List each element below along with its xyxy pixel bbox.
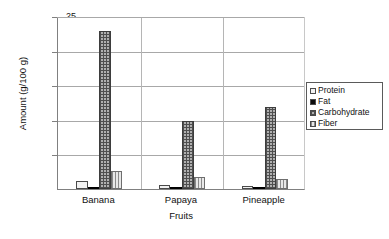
- legend-swatch-carbohydrate-icon: [310, 110, 316, 116]
- x-tick-label-pineapple: Pineapple: [222, 194, 305, 205]
- category-separator: [223, 18, 224, 189]
- x-axis-title: Fruits: [57, 210, 305, 221]
- bar-pineapple-carbohydrate: [265, 107, 277, 189]
- x-tick-label-papaya: Papaya: [140, 194, 223, 205]
- legend-item-fat[interactable]: Fat: [310, 96, 380, 107]
- bar-banana-protein: [76, 181, 88, 189]
- bar-banana-fat: [88, 187, 100, 189]
- legend-item-fiber[interactable]: Fiber: [310, 118, 380, 129]
- category-separator: [141, 18, 142, 189]
- bar-pineapple-fiber: [276, 179, 288, 189]
- legend-label-fiber: Fiber: [318, 118, 337, 129]
- bar-banana-carbohydrate: [99, 31, 111, 189]
- legend: Protein Fat Carbohydrate Fiber: [306, 82, 383, 130]
- bar-papaya-protein: [159, 185, 171, 189]
- bar-papaya-fat: [170, 187, 182, 189]
- legend-label-fat: Fat: [318, 96, 330, 107]
- bar-chart: Amount (g/100 g) 510152025 BananaPapayaP…: [0, 0, 389, 239]
- legend-item-protein[interactable]: Protein: [310, 85, 380, 96]
- legend-swatch-fat-icon: [310, 99, 316, 105]
- legend-item-carbohydrate[interactable]: Carbohydrate: [310, 107, 380, 118]
- y-axis-title: Amount (g/100 g): [17, 24, 28, 164]
- bar-papaya-carbohydrate: [182, 121, 194, 189]
- bar-papaya-fiber: [194, 177, 206, 189]
- x-tick-label-banana: Banana: [57, 194, 140, 205]
- gridline: [58, 86, 304, 87]
- bar-banana-fiber: [111, 171, 123, 189]
- legend-label-protein: Protein: [318, 85, 345, 96]
- gridline: [58, 17, 304, 18]
- legend-label-carbohydrate: Carbohydrate: [318, 107, 370, 118]
- plot-area: [57, 17, 305, 190]
- legend-swatch-protein-icon: [310, 88, 316, 94]
- legend-swatch-fiber-icon: [310, 121, 316, 127]
- bar-pineapple-fat: [253, 187, 265, 189]
- bar-pineapple-protein: [242, 186, 254, 189]
- gridline: [58, 52, 304, 53]
